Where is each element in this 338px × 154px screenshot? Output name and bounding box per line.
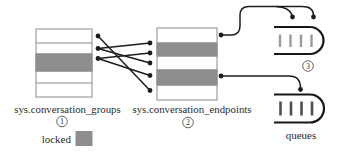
- connector-dot: [148, 88, 153, 93]
- arrowhead-dot: [290, 15, 295, 20]
- arrowhead-dot: [311, 15, 316, 20]
- legend-locked-swatch: [76, 131, 93, 146]
- queue2-icon: [274, 95, 324, 123]
- step2-badge: 2: [183, 117, 194, 128]
- endpoints-table-outline: [157, 28, 217, 100]
- connector-dot: [96, 46, 101, 51]
- arrowhead-dot: [298, 87, 303, 92]
- connector-dot: [96, 56, 101, 61]
- groups-table-label: sys.conversation_groups: [14, 103, 120, 115]
- endpoints-locked-row: [157, 43, 217, 56]
- endpoints-locked-row: [157, 70, 217, 85]
- connector-dot: [148, 41, 153, 46]
- legend: locked: [42, 131, 93, 146]
- queue1-icon: [274, 27, 324, 54]
- groups-locked-row: [36, 54, 92, 71]
- groups-endpoints-connectors: [96, 34, 153, 93]
- step3-badge: 3: [303, 61, 314, 72]
- diagram-canvas: sys.conversation_groups sys.conversation…: [0, 0, 338, 154]
- connector-dot: [148, 73, 153, 78]
- connector-line: [98, 53, 150, 59]
- queues-label: queues: [286, 129, 317, 141]
- step1-number: 1: [60, 117, 64, 126]
- step1-badge: 1: [57, 116, 68, 127]
- connector-dot: [219, 74, 224, 79]
- queue1-outline: [274, 27, 324, 54]
- connector-dot: [148, 51, 153, 56]
- connector-endpoint1-queue1-outer: [221, 7, 314, 36]
- connector-dot: [148, 61, 153, 66]
- connector-dot: [219, 33, 224, 38]
- connector-endpoint2-queue2: [221, 76, 301, 88]
- connector-dot: [96, 34, 101, 39]
- connector-endpoint1-queue1-inner: [276, 7, 292, 16]
- endpoints-queue-connectors: [219, 7, 316, 92]
- endpoints-table-label: sys.conversation_endpoints: [132, 103, 251, 115]
- conversation-groups-table: [36, 29, 92, 97]
- conversation-endpoints-table: [157, 28, 217, 100]
- service-broker-diagram: sys.conversation_groups sys.conversation…: [0, 0, 338, 154]
- step2-number: 2: [186, 118, 190, 127]
- step3-number: 3: [306, 62, 310, 71]
- legend-locked-label: locked: [42, 133, 72, 145]
